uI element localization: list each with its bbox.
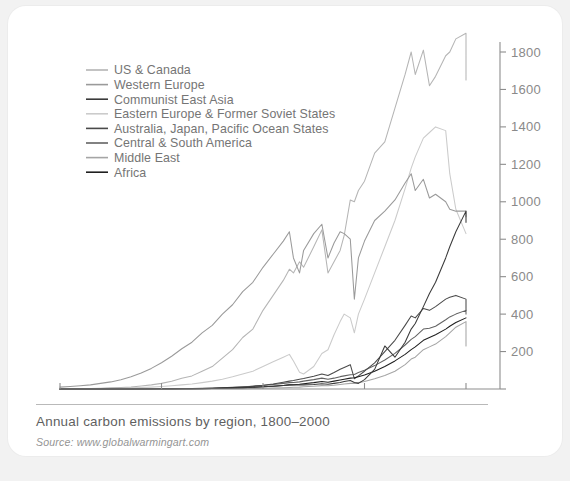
page-background: 1800185019001950200020040060080010001200… [0,0,570,481]
y-axis-tick-label: 400 [511,307,534,322]
caption-divider [36,404,488,405]
series-line [60,174,466,387]
series-line [60,310,466,389]
caption-block: Annual carbon emissions by region, 1800–… [36,404,496,448]
y-axis-tick-label: 1600 [511,82,541,97]
y-axis-tick-label: 600 [511,269,534,284]
legend-label: Eastern Europe & Former Soviet States [114,107,335,121]
legend-label: Middle East [114,151,180,165]
legend-label: Africa [114,166,146,180]
legend-label: Western Europe [114,78,205,92]
legend-label: US & Canada [114,63,191,77]
emissions-line-chart: 1800185019001950200020040060080010001200… [28,24,542,396]
y-axis-tick-label: 800 [511,232,534,247]
legend-label: Communist East Asia [114,93,234,107]
figure: 1800185019001950200020040060080010001200… [28,24,542,444]
y-axis-tick-label: 1200 [511,157,541,172]
series-line [60,322,466,389]
figure-card: 1800185019001950200020040060080010001200… [8,6,562,456]
x-axis-tick-label: 1850 [146,394,176,396]
x-axis-tick-label: 1800 [45,394,75,396]
legend-label: Central & South America [114,136,252,150]
x-axis-tick-label: 1950 [349,394,379,396]
y-axis-tick-label: 200 [511,344,534,359]
legend-label: Australia, Japan, Pacific Ocean States [114,122,329,136]
series-line [60,318,466,389]
x-axis-tick-label: 2000 [451,394,481,396]
x-axis-tick-label: 1900 [248,394,278,396]
caption-title: Annual carbon emissions by region, 1800–… [36,414,496,429]
series-line [60,211,466,389]
y-axis-tick-label: 1800 [511,45,541,60]
caption-source: Source: www.globalwarmingart.com [36,436,496,448]
chart-plot-area: 1800185019001950200020040060080010001200… [28,24,542,396]
y-axis-tick-label: 1000 [511,194,541,209]
y-axis-tick-label: 1400 [511,119,541,134]
